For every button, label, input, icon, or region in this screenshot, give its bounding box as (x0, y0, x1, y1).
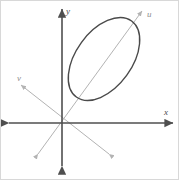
ellipse-group (54, 5, 155, 114)
secondary-axes-group (21, 11, 142, 154)
y-axis-label: y (66, 7, 70, 16)
v-axis-label: v (17, 74, 21, 83)
coordinate-figure: x y u v (0, 0, 179, 180)
ellipse-shape (54, 5, 155, 114)
figure-canvas (1, 1, 179, 180)
v-axis-line (21, 85, 109, 154)
x-axis-label: x (164, 108, 168, 117)
u-axis-label: u (147, 10, 152, 19)
primary-axes-group (9, 9, 173, 166)
